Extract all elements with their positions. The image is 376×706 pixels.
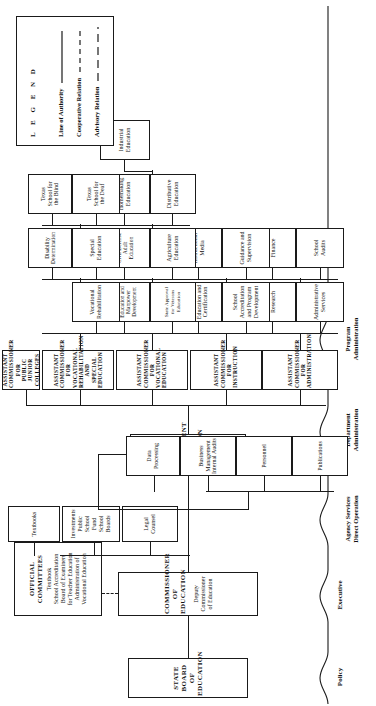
line-vocrehab-spine-extend-2 (80, 224, 81, 228)
line-to-finance (272, 268, 273, 280)
line-to-data-processing (154, 476, 155, 492)
line-advisory-official-committees (102, 593, 118, 594)
line-vocational-spine-extend (152, 278, 153, 282)
box-guidance-and-supervision[interactable]: Guidance and Supervision (222, 228, 270, 268)
legend-row-cooperative-relation: Cooperative Relation (75, 28, 83, 137)
category-label-policy: Policy (336, 654, 344, 700)
box-distributive-education[interactable]: Distributive Education (150, 174, 196, 214)
line-to-texas-school-deaf (96, 214, 97, 226)
box-administrative-services[interactable]: Administrative Services (296, 282, 344, 322)
rail-assistant-commissioners (26, 405, 326, 406)
box-assistant-commissioner-vocational-education[interactable]: ASSISTANT COMMISSIONER FOR VOCATIONAL ED… (116, 350, 188, 390)
line-to-school-accreditation (246, 322, 247, 334)
box-commissioner-of-education[interactable]: COMMISSIONER OF EDUCATION Deputy Commiss… (118, 572, 258, 616)
box-texas-school-for-the-blind[interactable]: Texas School for the Blind (28, 174, 72, 214)
line-commissioner-to-department (188, 476, 189, 572)
box-assistant-commissioner-public-junior-colleges[interactable]: ASSISTANT COMMISSIONER FOR PUBLIC JUNIOR… (2, 350, 40, 390)
spine-agency-units (98, 509, 248, 510)
box-publications[interactable]: Publications (292, 436, 348, 476)
line-to-ac-vocational (152, 390, 153, 406)
line-vocrehab-spine-extend (80, 278, 81, 282)
box-investments-public-school-fund[interactable]: Investments Public School Fund School Bo… (62, 506, 120, 542)
line-to-disability-determination (52, 268, 53, 280)
box-school-audits[interactable]: School Audits (296, 228, 344, 268)
line-dept-spine-connect (248, 492, 249, 510)
line-department-to-ac-rail (188, 406, 189, 434)
legend-row-line-of-authority: Line of Authority (57, 31, 65, 137)
box-special-education[interactable]: Special Education (72, 228, 120, 268)
legend-box: L E G E N D Line of Authority Cooperativ… (16, 16, 114, 146)
spine-agency-services (60, 555, 190, 556)
line-to-distributive-education (172, 214, 173, 226)
line-instruction-spine-extend (226, 278, 227, 282)
box-legal-counsel[interactable]: Legal Counsel (122, 506, 178, 542)
line-to-administrative-services (320, 322, 321, 334)
line-to-guidance-supervision (246, 268, 247, 280)
line-ac-instruction-to-spine (226, 334, 227, 350)
line-to-research (272, 322, 273, 334)
spine-dept-units (206, 491, 334, 492)
line-to-textbooks (34, 542, 35, 556)
line-to-homemaking-education (124, 214, 125, 226)
line-board-to-commissioner (188, 616, 189, 658)
line-to-investments (94, 542, 95, 556)
org-chart-canvas: Policy Executive Agency Services Direct … (0, 0, 376, 706)
line-to-publications (320, 476, 321, 492)
box-state-board-of-education[interactable]: STATE BOARD OF EDUCATION (128, 658, 248, 698)
category-label-agency-services: Agency Services Direct Operation (336, 487, 359, 551)
line-to-special-education (96, 268, 97, 280)
box-vocational-rehabilitation[interactable]: Vocational Rehabilitation (72, 282, 120, 322)
box-texas-school-for-the-deaf[interactable]: Texas School for the Deaf (72, 174, 120, 214)
line-to-personnel (264, 476, 265, 492)
line-to-state-approval-veterans (172, 322, 173, 334)
line-to-vocational-rehabilitation (96, 322, 97, 334)
category-label-executive: Executive (336, 572, 344, 618)
line-to-ac-instruction (226, 390, 227, 406)
box-data-processing[interactable]: Data Processing (126, 436, 180, 476)
legend-row-advisory-relation: Advisory Relation (93, 27, 101, 137)
box-personnel[interactable]: Personnel (236, 436, 292, 476)
line-ac-admin-to-spine (300, 334, 301, 350)
line-to-legal-counsel (150, 542, 151, 556)
line-to-texas-school-blind (52, 214, 53, 226)
line-to-civil-defense-adult-education (124, 268, 125, 280)
line-ac-vocational-to-spine (152, 334, 153, 350)
legend-title: L E G E N D (29, 66, 37, 137)
box-state-approval-veterans-education[interactable]: State Approval for Veterans Education (150, 282, 196, 322)
box-assistant-commissioner-administration[interactable]: ASSISTANT COMMISSIONER FOR ADMINISTRATIO… (262, 350, 338, 390)
line-vocational-spine-extend-3 (152, 170, 153, 174)
line-to-school-audits (320, 268, 321, 280)
line-to-instructional-media (198, 268, 199, 280)
line-admin-spine-extend (300, 278, 301, 282)
box-assistant-commissioner-vocational-rehabilitation[interactable]: ASSISTANT COMMISSIONER FOR VOCATIONAL RE… (42, 350, 114, 390)
line-to-agriculture-education (172, 268, 173, 280)
line-to-ac-vocational-rehabilitation (80, 390, 81, 406)
box-business-management-internal-audits[interactable]: Business Management Internal Audits (180, 436, 236, 476)
box-official-committees[interactable]: OFFICIAL COMMITTEES Textbook School Accr… (14, 542, 102, 616)
spine-vocrehab-units (42, 333, 116, 334)
rail-department-administration (98, 454, 99, 510)
box-school-accreditation-program-development[interactable]: School Accreditation and Program Develop… (222, 282, 270, 322)
line-to-ac-administration (300, 390, 301, 406)
spine-vocational-units-4 (124, 171, 152, 172)
box-disability-determination[interactable]: Disability Determination (28, 228, 72, 268)
line-ac-vocrehab-to-spine (80, 334, 81, 350)
box-textbooks[interactable]: Textbooks (8, 506, 60, 542)
line-to-technical-education (124, 322, 125, 334)
line-to-business-management (208, 476, 209, 492)
line-to-teacher-education (198, 322, 199, 334)
box-agriculture-education[interactable]: Agriculture Education (150, 228, 196, 268)
box-assistant-commissioner-instruction[interactable]: ASSISTANT COMMISSIONER FOR INSTRUCTION (190, 350, 262, 390)
line-vocational-spine-extend-2 (152, 224, 153, 228)
line-to-ac-junior-colleges (26, 390, 27, 406)
